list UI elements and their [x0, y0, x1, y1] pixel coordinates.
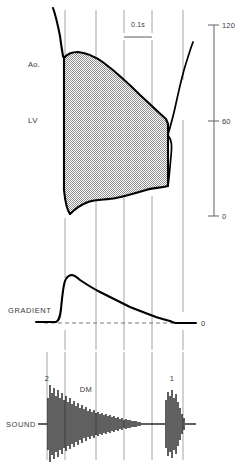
figure-background — [0, 0, 243, 467]
aorta-label: Ao. — [28, 60, 40, 69]
heart-sound-2-label: 2 — [45, 374, 49, 383]
lv-label: LV — [28, 116, 38, 125]
diastolic-murmur-label: DM — [80, 385, 92, 394]
gradient-zero-label: 0 — [201, 319, 205, 328]
heart-sound-1-label: 1 — [170, 374, 174, 383]
pressure-tick-label-60: 60 — [222, 117, 231, 126]
timescale-label: 0.1s — [131, 21, 145, 28]
gradient-label: GRADIENT — [8, 306, 52, 315]
pressure-tick-label-0: 0 — [222, 212, 226, 221]
pressure-tick-label-120: 120 — [222, 21, 235, 30]
sound-label: SOUND — [6, 420, 36, 429]
hemodynamic-figure: 0.1s 120 60 0 Ao. LV 0 GRADIENT SOUND — [0, 0, 243, 467]
